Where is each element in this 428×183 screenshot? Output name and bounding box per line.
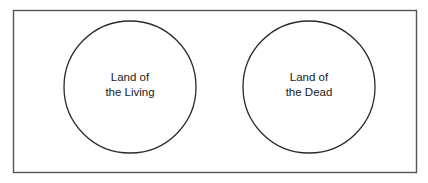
diagram-canvas: Land of the Living Land of the Dead [0,0,428,183]
living-label-line2: the Living [105,86,154,98]
circle-land-of-the-living: Land of the Living [64,21,196,153]
dead-label-line2: the Dead [286,86,333,98]
living-label-line1: Land of [111,71,150,83]
outer-frame [14,11,417,173]
circle-land-of-the-dead: Land of the Dead [243,21,375,153]
dead-label-line1: Land of [290,71,329,83]
